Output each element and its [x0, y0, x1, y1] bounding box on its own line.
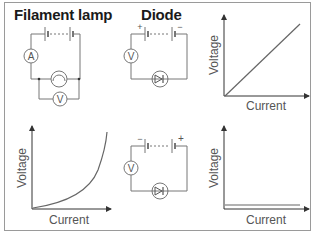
diagram-canvas: A V V + − V	[0, 0, 316, 237]
voltmeter-label-forward: V	[128, 51, 135, 62]
graph-diode	[224, 126, 309, 209]
xlabel-filament: Current	[49, 213, 90, 227]
ylabel-linear: Voltage	[207, 35, 221, 75]
plus-terminal-reverse: +	[178, 133, 184, 144]
minus-terminal-forward: −	[177, 22, 182, 32]
xlabel-linear: Current	[246, 99, 287, 113]
ammeter-label: A	[28, 51, 35, 62]
xlabel-diode: Current	[246, 213, 287, 227]
graph-filament	[32, 126, 111, 209]
plus-terminal-forward: +	[137, 22, 142, 32]
graph-linear	[224, 15, 309, 96]
voltmeter-label-reverse: V	[128, 163, 135, 174]
ylabel-diode: Voltage	[207, 148, 221, 188]
ylabel-filament: Voltage	[15, 148, 29, 188]
voltmeter-label: V	[57, 94, 64, 105]
minus-terminal-reverse: −	[137, 134, 142, 144]
filament-circuit	[24, 27, 80, 106]
